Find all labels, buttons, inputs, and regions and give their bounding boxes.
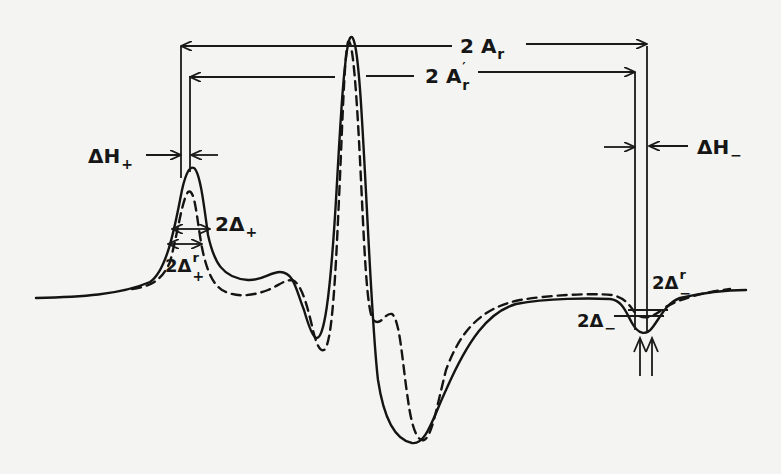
label-subscript: +: [121, 156, 133, 172]
label-subscript: −: [730, 147, 742, 163]
label-text: 2Δ: [577, 310, 603, 331]
label-text: ΔH: [88, 144, 120, 168]
delta-h-minus-arrows: [604, 146, 688, 147]
two-a-r-dimension: [181, 44, 647, 332]
label-subscript: r: [497, 46, 504, 62]
label-text: 2Δ: [215, 212, 244, 236]
label-2a-r-prime: 2 A′r: [425, 66, 475, 86]
label-subscript: +: [192, 269, 204, 283]
label-text: 2Δ: [165, 255, 191, 276]
label-2-delta-plus-r: 2Δr+: [165, 257, 205, 277]
solid-curve: [36, 37, 746, 443]
label-delta-h-minus: ΔH−: [697, 137, 741, 157]
label-superscript: ′: [462, 60, 465, 73]
label-subsup: ′r: [461, 66, 475, 86]
two-delta-minus-arrows: [614, 310, 668, 376]
label-2-delta-minus: 2Δ−: [577, 312, 615, 330]
spectrum-svg: [0, 0, 781, 474]
label-text: 2Δ: [652, 272, 678, 293]
label-subscript: −: [604, 320, 616, 336]
label-subscript: −: [679, 286, 691, 300]
label-superscript: r: [679, 268, 685, 281]
dashed-curve: [132, 41, 730, 440]
label-text: 2 A: [425, 64, 461, 88]
two-a-r-prime-dimension: [190, 72, 635, 330]
label-text: 2 A: [460, 34, 496, 58]
label-subsup: r−: [678, 274, 692, 294]
label-subscript: +: [245, 224, 257, 240]
label-text: ΔH: [697, 135, 729, 159]
label-subscript: r: [462, 78, 469, 92]
label-subsup: r+: [191, 257, 205, 277]
spectrum-diagram: 2 Ar 2 A′r ΔH+ ΔH− 2Δ+ 2Δr+ 2Δ− 2Δr−: [0, 0, 781, 474]
label-2a-r: 2 Ar: [460, 36, 503, 56]
label-superscript: r: [192, 251, 198, 264]
label-2-delta-plus: 2Δ+: [215, 214, 256, 234]
label-delta-h-plus: ΔH+: [88, 146, 132, 166]
label-2-delta-minus-r: 2Δr−: [652, 274, 692, 294]
